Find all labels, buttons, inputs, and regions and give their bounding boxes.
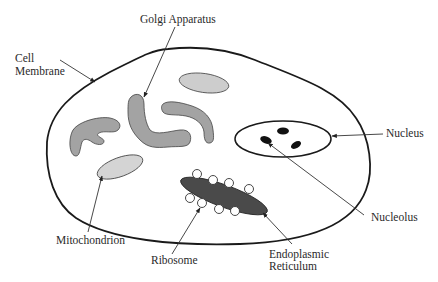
ribosome-label: Ribosome (151, 254, 198, 266)
er-label-line2: Reticulum (269, 260, 317, 272)
golgi-body-left (70, 118, 120, 156)
golgi-label: Golgi Apparatus (140, 13, 216, 26)
mitochondrion-label: Mitochondrion (56, 234, 125, 246)
nucleus (235, 121, 331, 157)
nucleus-leader (332, 134, 383, 136)
ribosome (198, 199, 207, 208)
ribosome (225, 179, 234, 188)
ribosome (231, 207, 240, 216)
ribosome (193, 170, 202, 179)
ribosome (186, 194, 195, 203)
nucleus-label: Nucleus (386, 127, 424, 139)
golgi-leader (144, 27, 175, 97)
cell-membrane-label-line2: Membrane (15, 65, 65, 77)
ribosome-leader (172, 208, 200, 254)
golgi-body-center (128, 94, 191, 147)
ribosome (209, 176, 218, 185)
mitochondrion (94, 150, 146, 184)
ribosome (215, 205, 224, 214)
er-leader (263, 213, 292, 244)
membrane-leader (60, 60, 95, 82)
cell-diagram: Golgi Apparatus Cell Membrane Nucleus Nu… (0, 0, 438, 282)
vesicle (178, 70, 230, 96)
ribosome (245, 185, 254, 194)
nucleolus-spot (277, 128, 289, 135)
cell-membrane-label-line1: Cell (15, 52, 34, 64)
nucleolus-leader (268, 143, 364, 215)
nucleolus-label: Nucleolus (371, 211, 418, 223)
mitochondrion-leader (88, 176, 102, 232)
